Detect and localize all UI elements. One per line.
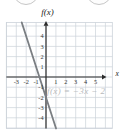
y-tick-label: -1 bbox=[38, 83, 43, 90]
x-tick-label: -2 bbox=[24, 78, 29, 85]
graph-answer-option: -3-2-112345-4-3-2-11234f(x)xf(x) = −3x −… bbox=[0, 0, 124, 135]
x-tick-label: 4 bbox=[84, 78, 88, 85]
y-tick-label: -2 bbox=[38, 94, 43, 101]
y-tick-label: -4 bbox=[38, 114, 44, 121]
y-tick-label: -3 bbox=[38, 104, 43, 111]
equation-label: f(x) = −3x − 2 bbox=[47, 86, 105, 96]
y-tick-label: 3 bbox=[40, 43, 43, 50]
x-axis-title: x bbox=[115, 69, 120, 78]
x-tick-label: -3 bbox=[14, 78, 19, 85]
y-axis-title: f(x) bbox=[41, 7, 54, 17]
y-tick-label: 1 bbox=[40, 63, 43, 70]
y-tick-label: 2 bbox=[40, 53, 43, 60]
x-tick-label: 1 bbox=[54, 78, 57, 85]
x-tick-label: 5 bbox=[94, 78, 97, 85]
grid-border bbox=[6, 22, 112, 128]
y-axis-arrow-icon bbox=[44, 21, 49, 26]
function-line bbox=[22, 22, 56, 128]
x-tick-label: 2 bbox=[64, 78, 67, 85]
function-graph-canvas: -3-2-112345-4-3-2-11234f(x)xf(x) = −3x −… bbox=[0, 0, 124, 135]
x-axis-arrow-icon bbox=[102, 75, 107, 80]
x-tick-label: 3 bbox=[74, 78, 77, 85]
